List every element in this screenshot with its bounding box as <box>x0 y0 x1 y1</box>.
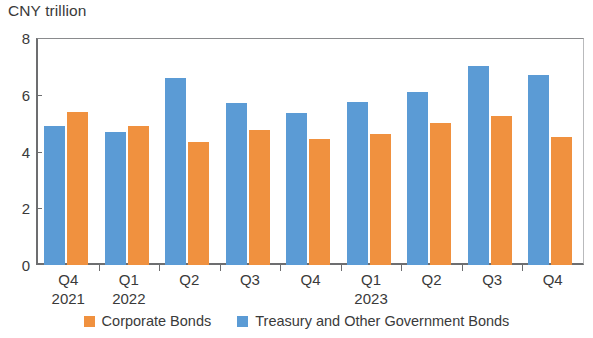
bar-corporate-bonds <box>430 123 451 265</box>
bar-corporate-bonds <box>309 139 330 265</box>
bar-group <box>159 38 220 265</box>
y-axis-tick-label: 0 <box>4 257 30 274</box>
x-axis-label: Q2 <box>400 270 464 289</box>
bar-treasury-and-other-government-bonds <box>407 92 428 265</box>
x-axis-labels: Q42021Q12022Q2Q3Q4Q12023Q2Q3Q4 <box>38 270 583 316</box>
x-axis-quarter-label: Q4 <box>58 271 78 288</box>
bar-corporate-bonds <box>551 137 572 265</box>
bar-group <box>280 38 341 265</box>
x-axis-quarter-label: Q4 <box>300 271 320 288</box>
bar-treasury-and-other-government-bonds <box>44 126 65 265</box>
y-axis-tick-mark <box>36 95 42 96</box>
x-axis-year-label: 2021 <box>36 289 100 308</box>
bar-corporate-bonds <box>370 134 391 265</box>
legend-color-swatch <box>84 316 95 327</box>
bar-treasury-and-other-government-bonds <box>286 113 307 265</box>
bar-group <box>522 38 583 265</box>
y-axis-tick-label: 4 <box>4 143 30 160</box>
bar-corporate-bonds <box>67 112 88 265</box>
legend-label: Corporate Bonds <box>102 313 212 329</box>
x-axis-year-label: 2023 <box>339 289 403 308</box>
y-axis-tick-label: 6 <box>4 86 30 103</box>
bar-group <box>401 38 462 265</box>
x-axis-label: Q42021 <box>36 270 100 308</box>
x-axis-quarter-label: Q4 <box>543 271 563 288</box>
x-axis-label: Q2 <box>157 270 221 289</box>
bar-treasury-and-other-government-bonds <box>165 78 186 265</box>
y-axis-tick-label: 8 <box>4 30 30 47</box>
x-axis-label: Q3 <box>460 270 524 289</box>
x-axis-quarter-label: Q1 <box>119 271 139 288</box>
bar-treasury-and-other-government-bonds <box>105 132 126 265</box>
x-axis-label: Q3 <box>218 270 282 289</box>
bar-group <box>99 38 160 265</box>
y-axis-tick-mark <box>36 208 42 209</box>
x-axis-quarter-label: Q3 <box>240 271 260 288</box>
bar-corporate-bonds <box>249 130 270 265</box>
legend-item: Treasury and Other Government Bonds <box>237 313 509 329</box>
bar-treasury-and-other-government-bonds <box>528 75 549 265</box>
y-axis: 02468 <box>0 0 36 338</box>
bar-group <box>341 38 402 265</box>
x-axis-label: Q4 <box>521 270 585 289</box>
x-axis-year-label: 2022 <box>97 289 161 308</box>
legend-label: Treasury and Other Government Bonds <box>255 313 509 329</box>
bar-treasury-and-other-government-bonds <box>347 102 368 265</box>
bar-corporate-bonds <box>188 142 209 265</box>
bar-treasury-and-other-government-bonds <box>226 103 247 265</box>
legend-color-swatch <box>237 316 248 327</box>
bar-corporate-bonds <box>128 126 149 265</box>
x-axis-quarter-label: Q2 <box>179 271 199 288</box>
bar-group <box>462 38 523 265</box>
x-axis-label: Q12022 <box>97 270 161 308</box>
x-axis-quarter-label: Q1 <box>361 271 381 288</box>
x-axis-quarter-label: Q2 <box>422 271 442 288</box>
y-axis-tick-mark <box>36 152 42 153</box>
bars-layer <box>38 38 583 265</box>
legend-item: Corporate Bonds <box>84 313 212 329</box>
x-axis-label: Q4 <box>279 270 343 289</box>
x-axis-label: Q12023 <box>339 270 403 308</box>
chart-legend: Corporate BondsTreasury and Other Govern… <box>0 313 593 329</box>
x-axis-quarter-label: Q3 <box>482 271 502 288</box>
bar-group <box>38 38 99 265</box>
bar-group <box>220 38 281 265</box>
bar-treasury-and-other-government-bonds <box>468 66 489 265</box>
bar-corporate-bonds <box>491 116 512 265</box>
y-axis-tick-label: 2 <box>4 200 30 217</box>
bar-chart: CNY trillion 02468 Q42021Q12022Q2Q3Q4Q12… <box>0 0 593 338</box>
